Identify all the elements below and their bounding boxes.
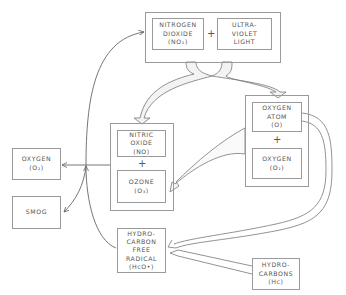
- ozone-label: OZONE (O₃): [117, 170, 166, 203]
- plus-sign-top: +: [207, 29, 215, 39]
- oxygen-atom-label: OXYGEN ATOM (O): [252, 102, 302, 132]
- plus-sign-middle: +: [138, 159, 146, 169]
- nitrogen-dioxide-label: NITROGEN DIOXIDE (NO₂): [152, 18, 204, 50]
- wide-arrow-to-ozone: [170, 128, 245, 192]
- oxygen-molecule-left-label: OXYGEN (O₂): [12, 148, 61, 180]
- wide-arrow-hydrocarbons-to-radical: [170, 250, 252, 274]
- hydrocarbon-free-radical-label: HYDRO- CARBON FREE RADICAL (HᴄO•): [117, 228, 166, 273]
- plus-sign-right: +: [273, 135, 281, 145]
- hydrocarbons-label: HYDRO- CARBONS (Hᴄ): [252, 258, 300, 290]
- ultraviolet-light-label: ULTRA- VIOLET LIGHT: [217, 18, 272, 50]
- oxygen-molecule-right-label: OXYGEN (O₂): [252, 148, 302, 179]
- nitric-oxide-label: NITRIC OXIDE (NO): [117, 130, 166, 157]
- smog-label: SMOG: [12, 196, 61, 229]
